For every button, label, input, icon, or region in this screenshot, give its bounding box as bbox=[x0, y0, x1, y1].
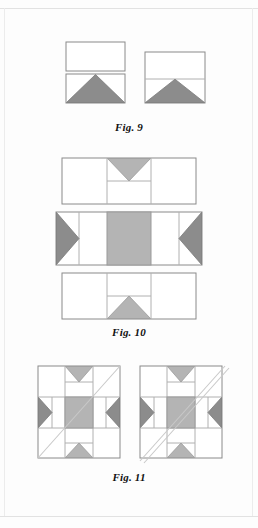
fig11-caption: Fig. 11 bbox=[0, 471, 258, 483]
fig10-top-row bbox=[62, 158, 196, 204]
figure-page: Fig. 9 bbox=[0, 0, 258, 528]
fig11-left-block bbox=[38, 366, 120, 458]
fig9-artwork bbox=[0, 38, 258, 118]
fig11-artwork bbox=[0, 360, 258, 468]
fig10-artwork bbox=[0, 155, 258, 323]
fig11-right-block bbox=[140, 366, 229, 463]
fig9-left-unit bbox=[66, 42, 125, 103]
fig11-right-center-square bbox=[167, 397, 195, 428]
fig10-middle-row bbox=[56, 212, 202, 265]
fig10-bottom-row bbox=[62, 273, 196, 319]
fig9-caption: Fig. 9 bbox=[0, 121, 258, 133]
page-border-bottom bbox=[0, 516, 258, 517]
fig9-right-unit bbox=[145, 52, 205, 103]
fig10-caption: Fig. 10 bbox=[0, 326, 258, 338]
page-border-top bbox=[0, 8, 258, 9]
fig9-left-plain-rectangle bbox=[66, 42, 125, 71]
fig10-middle-row-center-square bbox=[107, 212, 151, 265]
